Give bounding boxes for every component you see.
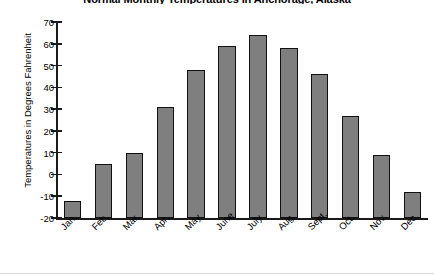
bar[interactable] (218, 46, 235, 218)
bar-slot (119, 22, 150, 218)
chart-title: Normal Monthly Temperatures in Anchorage… (0, 0, 434, 4)
bar[interactable] (95, 164, 112, 218)
bar-slot (88, 22, 119, 218)
y-tick-label: -10 (14, 192, 54, 202)
bar[interactable] (126, 153, 143, 218)
bar-slot (212, 22, 243, 218)
bar-slot (366, 22, 397, 218)
bar[interactable] (249, 35, 266, 218)
bar-slot (150, 22, 181, 218)
bar-slot (243, 22, 274, 218)
bar[interactable] (342, 116, 359, 218)
plot-area: 706050403020100-10-20 (56, 22, 428, 219)
bar[interactable] (311, 74, 328, 218)
bar-slot (273, 22, 304, 218)
bar[interactable] (157, 107, 174, 218)
bar-slot (397, 22, 428, 218)
bar-slot (181, 22, 212, 218)
y-tick-label: 40 (14, 83, 54, 93)
page-edge-line (0, 273, 434, 274)
bar-slot (57, 22, 88, 218)
y-tick-label: 20 (14, 127, 54, 137)
bar-chart: Normal Monthly Temperatures in Anchorage… (0, 0, 434, 276)
bar[interactable] (187, 70, 204, 218)
bar-slot (335, 22, 366, 218)
y-tick-label: 10 (14, 149, 54, 159)
y-tick-label: 50 (14, 62, 54, 72)
bar-series (57, 22, 428, 218)
y-tick-label: 0 (14, 170, 54, 180)
bar[interactable] (280, 48, 297, 218)
bar-slot (304, 22, 335, 218)
y-tick-label: 30 (14, 105, 54, 115)
y-tick-label: 60 (14, 40, 54, 50)
bar[interactable] (373, 155, 390, 218)
x-axis-labels: Jan.Feb.Mar.Apr.MayJuneJulyAug.Sept.Oct.… (56, 221, 428, 276)
y-tick-label: -20 (14, 214, 54, 224)
y-tick-label: 70 (14, 18, 54, 28)
